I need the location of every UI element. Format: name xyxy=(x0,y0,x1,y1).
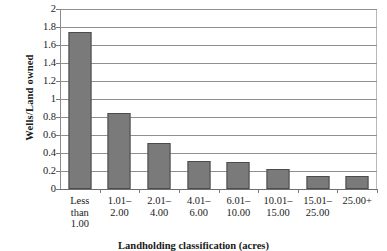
bar[interactable] xyxy=(227,162,250,189)
bar[interactable] xyxy=(306,176,329,190)
x-axis-tick-label: 15.01– 25.00 xyxy=(298,195,338,218)
x-axis-tick-mark xyxy=(258,189,259,193)
bar-slot xyxy=(337,9,377,189)
y-axis-tick-mark xyxy=(56,189,60,190)
x-axis-tick-label: 1.01– 2.00 xyxy=(100,195,140,218)
bar[interactable] xyxy=(266,169,289,189)
bar-slot xyxy=(179,9,219,189)
x-axis-tick-mark xyxy=(100,189,101,193)
x-axis-tick-label: 10.01– 15.00 xyxy=(258,195,298,218)
plot-area xyxy=(60,9,377,189)
y-axis-tick-label: 1.4 xyxy=(10,58,56,68)
y-axis-tick-label: 0 xyxy=(10,184,56,194)
bar-slot xyxy=(100,9,140,189)
x-axis-tick-label: 25.00+ xyxy=(337,195,377,207)
x-axis-tick-label: 4.01– 6.00 xyxy=(179,195,219,218)
y-axis-tick-label: 0.2 xyxy=(10,166,56,176)
bar[interactable] xyxy=(346,176,369,190)
y-axis-tick-label: 0.8 xyxy=(10,112,56,122)
x-axis-tick-mark xyxy=(337,189,338,193)
y-axis-tick-label: 1 xyxy=(10,94,56,104)
y-axis-tick-label: 0.4 xyxy=(10,148,56,158)
bar[interactable] xyxy=(187,161,210,189)
y-axis-tick-label: 1.8 xyxy=(10,22,56,32)
bar-slot xyxy=(60,9,100,189)
bar-slot xyxy=(219,9,259,189)
y-axis-tick-label: 1.2 xyxy=(10,76,56,86)
x-axis-tick-label: 2.01– 4.00 xyxy=(139,195,179,218)
bar-slot xyxy=(139,9,179,189)
x-axis-tick-mark xyxy=(298,189,299,193)
y-axis-tick-label: 1.6 xyxy=(10,40,56,50)
bar-slot xyxy=(298,9,338,189)
y-axis-tick-label: 0.6 xyxy=(10,130,56,140)
bar[interactable] xyxy=(148,143,171,189)
bar-series xyxy=(60,9,377,189)
y-axis-tick-label: 2 xyxy=(10,4,56,14)
x-axis-tick-label: 6.01– 10.00 xyxy=(219,195,259,218)
x-axis-tick-label: Less than 1.00 xyxy=(60,195,100,230)
x-axis-tick-mark xyxy=(377,189,378,193)
bar[interactable] xyxy=(108,113,131,189)
x-axis-tick-mark xyxy=(179,189,180,193)
x-axis-title: Landholding classification (acres) xyxy=(0,240,387,251)
x-axis-tick-mark xyxy=(139,189,140,193)
bar-slot xyxy=(258,9,298,189)
bar[interactable] xyxy=(68,32,91,189)
x-axis-tick-mark xyxy=(219,189,220,193)
